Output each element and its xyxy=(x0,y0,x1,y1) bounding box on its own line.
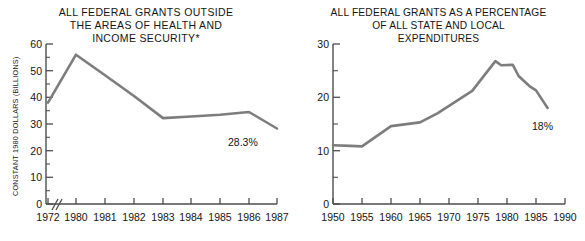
x-tick-label-left-1983: 1983 xyxy=(151,211,175,223)
x-tick-label-left-1980: 1980 xyxy=(64,211,88,223)
x-tick-label-right-1960: 1960 xyxy=(379,211,403,223)
y-tick-label-right-10: 10 xyxy=(317,145,329,157)
y-tick-label-left-0: 0 xyxy=(36,198,42,210)
y-tick-label-right-30: 30 xyxy=(317,38,329,50)
x-tick-label-right-1990: 1990 xyxy=(553,211,577,223)
x-tick-label-right-1980: 1980 xyxy=(495,211,519,223)
data-series-line-right xyxy=(333,61,548,146)
plot-area-right: 30 20 10 0 1950 1955 1960 1965 1970 1975 xyxy=(292,0,585,241)
x-major-ticks-right xyxy=(333,198,565,204)
y-tick-label-right-20: 20 xyxy=(317,91,329,103)
chart-panel-right: ALL FEDERAL GRANTS AS A PERCENTAGE OF AL… xyxy=(292,0,585,241)
x-tick-label-right-1970: 1970 xyxy=(437,211,461,223)
x-tick-label-right-1955: 1955 xyxy=(350,211,374,223)
y-major-ticks-left xyxy=(46,44,53,204)
x-tick-label-right-1950: 1950 xyxy=(321,211,345,223)
x-tick-label-left-1986: 1986 xyxy=(237,211,261,223)
y-tick-label-left-10: 10 xyxy=(30,171,42,183)
annotation-right-endpoint: 18% xyxy=(532,120,553,132)
x-major-ticks-left xyxy=(48,198,277,204)
x-tick-label-right-1985: 1985 xyxy=(524,211,548,223)
x-tick-label-left-1984: 1984 xyxy=(179,211,203,223)
y-tick-label-right-0: 0 xyxy=(323,198,329,210)
x-tick-label-left-1985: 1985 xyxy=(208,211,232,223)
x-tick-label-left-1972: 1972 xyxy=(36,211,60,223)
y-tick-label-left-20: 20 xyxy=(30,145,42,157)
y-tick-label-left-30: 30 xyxy=(30,118,42,130)
y-tick-label-left-60: 60 xyxy=(30,38,42,50)
y-minor-ticks-right xyxy=(333,71,338,178)
x-tick-label-right-1975: 1975 xyxy=(466,211,490,223)
chart-panel-left: ALL FEDERAL GRANTS OUTSIDE THE AREAS OF … xyxy=(0,0,292,241)
x-tick-label-left-1981: 1981 xyxy=(93,211,117,223)
data-series-line-left xyxy=(48,55,277,129)
two-panel-line-chart-figure: ALL FEDERAL GRANTS OUTSIDE THE AREAS OF … xyxy=(0,0,585,241)
x-tick-label-right-1965: 1965 xyxy=(408,211,432,223)
annotation-left-endpoint: 28.3% xyxy=(228,136,258,148)
plot-area-left: 60 50 40 30 20 10 0 xyxy=(0,0,292,241)
x-tick-label-left-1982: 1982 xyxy=(122,211,146,223)
x-tick-label-left-1987: 1987 xyxy=(265,211,289,223)
y-tick-label-left-40: 40 xyxy=(30,91,42,103)
y-tick-label-left-50: 50 xyxy=(30,65,42,77)
